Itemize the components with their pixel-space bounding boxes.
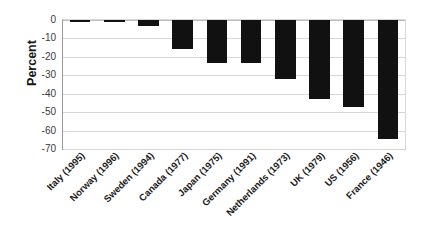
bar — [207, 20, 228, 63]
bar — [70, 20, 91, 22]
y-axis-tick-label: -50 — [20, 106, 56, 117]
y-axis-tick-label: -70 — [20, 143, 56, 154]
gridline — [63, 131, 405, 132]
bar — [172, 20, 193, 49]
y-axis-tick-label: -10 — [20, 32, 56, 43]
x-axis-tick-labels: Italy (1995)Norway (1996)Sweden (1994)Ca… — [62, 150, 404, 232]
bar — [378, 20, 399, 139]
bar — [241, 20, 262, 63]
bar — [309, 20, 330, 99]
y-axis-tick-label: -40 — [20, 87, 56, 98]
bar — [275, 20, 296, 79]
chart-figure: Percent 0-10-20-30-40-50-60-70 Italy (19… — [0, 0, 421, 232]
plot-area — [62, 19, 406, 150]
y-axis-tick-label: -60 — [20, 124, 56, 135]
y-axis-tick-label: 0 — [20, 14, 56, 25]
y-axis-tick-label: -30 — [20, 69, 56, 80]
bar — [104, 20, 125, 22]
gridline — [63, 112, 405, 113]
bar — [343, 20, 364, 107]
bar — [138, 20, 159, 26]
y-axis-tick-label: -20 — [20, 50, 56, 61]
